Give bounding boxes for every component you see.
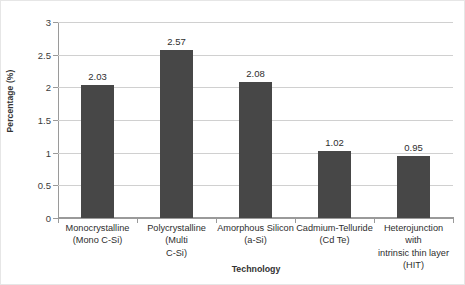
bar-value-label: 1.02 [305, 137, 365, 148]
y-axis-tick-mark [53, 185, 58, 186]
plot-area: 2.032.572.081.020.95 [58, 22, 453, 218]
x-axis-category-labels: Monocrystalline(Mono C-Si)Polycrystallin… [58, 222, 454, 270]
bar [81, 85, 114, 218]
bar-value-label: 2.57 [147, 36, 207, 47]
category-label-line: (Cd Te) [296, 234, 373, 246]
bar-value-label: 0.95 [384, 142, 444, 153]
bar [160, 50, 193, 218]
y-axis-tick-mark [53, 87, 58, 88]
x-axis-tick-mark [453, 218, 454, 223]
x-axis-category-label: Polycrystalline (MultiC-Si) [138, 222, 215, 259]
category-label-line: intrinsic thin layer [375, 247, 452, 259]
bar [397, 156, 430, 218]
x-axis-category-label: Amorphous Silicon(a-Si) [217, 222, 294, 247]
gridline [58, 218, 453, 219]
category-label-line: (a-Si) [217, 234, 294, 246]
x-axis-title: Technology [58, 264, 454, 274]
y-axis-tick-mark [53, 153, 58, 154]
category-label-line: Cadmium-Telluride [296, 222, 373, 234]
x-axis-category-label: Cadmium-Telluride(Cd Te) [296, 222, 373, 247]
category-label-line: Monocrystalline [59, 222, 136, 234]
y-axis-tick-mark [53, 22, 58, 23]
category-label-line: C-Si) [138, 247, 215, 259]
y-axis-tick-label: 1.5 [5, 115, 51, 126]
gridline [58, 55, 453, 56]
y-axis-tick-label: 1 [5, 147, 51, 158]
x-axis-tick-mark [216, 218, 217, 223]
x-axis-tick-mark [374, 218, 375, 223]
y-axis-tick-label: 0 [5, 213, 51, 224]
x-axis-tick-mark [137, 218, 138, 223]
x-axis-category-label: Monocrystalline(Mono C-Si) [59, 222, 136, 247]
category-label-line: Heterojunction with [375, 222, 452, 247]
y-axis-tick-label: 3 [5, 17, 51, 28]
bar-chart: Percentage (%) 00.511.522.53 2.032.572.0… [0, 0, 465, 285]
bar [318, 151, 351, 218]
x-axis-tick-mark [58, 218, 59, 223]
category-label-line: Polycrystalline (Multi [138, 222, 215, 247]
bar-value-label: 2.08 [226, 68, 286, 79]
x-axis-tick-mark [295, 218, 296, 223]
y-axis-tick-labels: 00.511.522.53 [1, 1, 51, 285]
category-label-line: Amorphous Silicon [217, 222, 294, 234]
y-axis-tick-label: 0.5 [5, 180, 51, 191]
bar [239, 82, 272, 218]
category-label-line: (Mono C-Si) [59, 234, 136, 246]
y-axis-tick-mark [53, 120, 58, 121]
bar-value-label: 2.03 [68, 71, 128, 82]
y-axis-tick-mark [53, 55, 58, 56]
y-axis-tick-label: 2 [5, 82, 51, 93]
gridline [58, 22, 453, 23]
y-axis-tick-label: 2.5 [5, 49, 51, 60]
